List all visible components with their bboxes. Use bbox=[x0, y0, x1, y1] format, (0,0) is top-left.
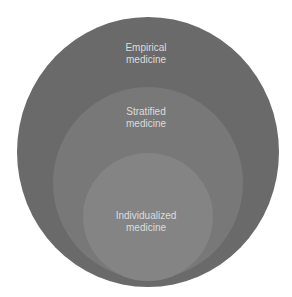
label-line-1: Individualized bbox=[0, 210, 292, 222]
stratified-medicine-label: Stratified medicine bbox=[0, 106, 292, 130]
label-line-2: medicine bbox=[0, 118, 292, 130]
empirical-medicine-label: Empirical medicine bbox=[0, 42, 292, 66]
label-line-1: Empirical bbox=[0, 42, 292, 54]
individualized-medicine-label: Individualized medicine bbox=[0, 210, 292, 234]
label-line-2: medicine bbox=[0, 222, 292, 234]
label-line-1: Stratified bbox=[0, 106, 292, 118]
label-line-2: medicine bbox=[0, 54, 292, 66]
